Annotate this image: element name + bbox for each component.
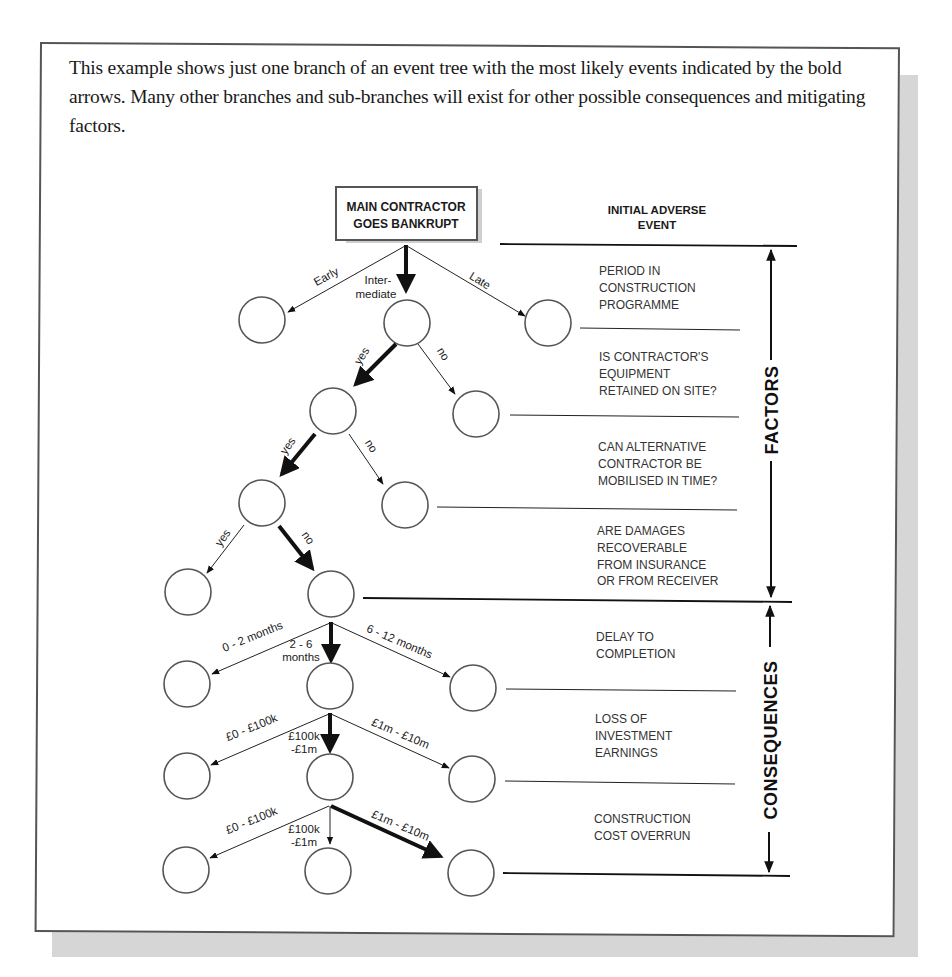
root-line-1: MAIN CONTRACTOR — [346, 200, 465, 214]
node-intermediate — [384, 300, 430, 346]
rule-cost — [503, 873, 790, 876]
rule-delay — [506, 689, 736, 691]
node-earn-low — [164, 753, 210, 799]
node-delay-short — [164, 661, 210, 707]
label-equip-yes: yes — [352, 345, 372, 367]
svg-text:COMPLETION: COMPLETION — [596, 647, 675, 661]
label-cost-mid-1: £100k — [288, 823, 320, 835]
label-delay-short: 0 - 2 months — [221, 619, 285, 654]
node-dmg-no — [308, 571, 354, 617]
svg-text:PERIOD IN: PERIOD IN — [599, 264, 660, 278]
side-label-alternative: CAN ALTERNATIVE CONTRACTOR BE MOBILISED … — [598, 440, 717, 488]
label-earn-mid-1: £100k — [288, 730, 320, 742]
svg-text:RECOVERABLE: RECOVERABLE — [597, 541, 687, 555]
svg-text:EQUIPMENT: EQUIPMENT — [599, 367, 671, 381]
node-early — [239, 297, 285, 343]
node-cost-low — [163, 847, 209, 893]
label-alt-yes: yes — [278, 435, 298, 457]
label-cost-mid-2: -£1m — [291, 836, 317, 848]
svg-text:RETAINED ON SITE?: RETAINED ON SITE? — [599, 384, 717, 398]
svg-text:IS CONTRACTOR'S: IS CONTRACTOR'S — [599, 350, 708, 364]
rule-damages — [363, 598, 792, 602]
svg-text:CAN ALTERNATIVE: CAN ALTERNATIVE — [598, 440, 706, 454]
svg-text:CONTRACTOR BE: CONTRACTOR BE — [598, 457, 702, 471]
side-label-cost: CONSTRUCTION COST OVERRUN — [594, 812, 691, 843]
node-dmg-yes — [165, 569, 211, 615]
svg-text:OR FROM RECEIVER: OR FROM RECEIVER — [597, 574, 719, 588]
node-cost-mid — [305, 848, 351, 894]
consequences-label: CONSEQUENCES — [761, 660, 781, 819]
node-equip-no — [453, 391, 499, 437]
svg-text:CONSTRUCTION: CONSTRUCTION — [599, 281, 696, 295]
label-late: Late — [467, 270, 492, 292]
side-label-initial: INITIAL ADVERSE EVENT — [608, 204, 707, 231]
svg-text:EARNINGS: EARNINGS — [595, 746, 658, 760]
svg-text:CONSTRUCTION: CONSTRUCTION — [594, 812, 691, 826]
rule-equipment — [510, 415, 739, 417]
svg-text:DELAY TO: DELAY TO — [596, 630, 654, 644]
svg-text:INITIAL ADVERSE: INITIAL ADVERSE — [608, 204, 707, 216]
node-delay-mid — [307, 663, 353, 709]
root-line-2: GOES BANKRUPT — [353, 217, 459, 231]
label-delay-long: 6 - 12 months — [365, 622, 435, 661]
node-alt-yes — [239, 480, 285, 526]
node-alt-no — [382, 482, 428, 528]
svg-text:EVENT: EVENT — [638, 219, 676, 231]
label-alt-no: no — [363, 437, 380, 454]
side-label-delay: DELAY TO COMPLETION — [596, 630, 675, 661]
svg-text:ARE DAMAGES: ARE DAMAGES — [597, 524, 685, 538]
label-intermediate-1: Inter- — [365, 274, 392, 286]
svg-text:COST OVERRUN: COST OVERRUN — [594, 829, 690, 843]
label-intermediate-2: mediate — [356, 288, 397, 300]
side-label-damages: ARE DAMAGES RECOVERABLE FROM INSURANCE O… — [597, 524, 719, 588]
label-delay-mid-2: months — [282, 651, 320, 663]
node-cost-high — [448, 850, 494, 896]
factors-label: FACTORS — [762, 365, 782, 454]
node-delay-long — [450, 665, 496, 711]
edge-late — [407, 246, 525, 316]
root-event-box: MAIN CONTRACTOR GOES BANKRUPT — [336, 187, 482, 243]
rule-earnings — [505, 781, 735, 784]
node-late — [525, 300, 571, 346]
rule-initial — [500, 244, 797, 246]
label-equip-no: no — [435, 345, 452, 362]
rule-alternative — [437, 507, 737, 510]
svg-text:FROM INSURANCE: FROM INSURANCE — [597, 558, 706, 572]
consequences-bracket: CONSEQUENCES — [761, 606, 781, 872]
node-earn-high — [449, 756, 495, 802]
svg-text:MOBILISED IN TIME?: MOBILISED IN TIME? — [598, 474, 717, 488]
node-equip-yes — [310, 388, 356, 434]
label-earn-mid-2: -£1m — [291, 743, 317, 755]
label-delay-mid-1: 2 - 6 — [289, 638, 312, 650]
side-label-equipment: IS CONTRACTOR'S EQUIPMENT RETAINED ON SI… — [599, 350, 717, 398]
svg-text:INVESTMENT: INVESTMENT — [595, 729, 673, 743]
label-earn-low: £0 - £100k — [224, 711, 279, 743]
side-label-earnings: LOSS OF INVESTMENT EARNINGS — [595, 712, 673, 760]
rule-period — [580, 328, 740, 330]
event-tree-diagram: MAIN CONTRACTOR GOES BANKRUPT Early Inte… — [0, 0, 952, 977]
factors-bracket: FACTORS — [762, 250, 782, 597]
node-earn-mid — [307, 754, 353, 800]
side-label-period: PERIOD IN CONSTRUCTION PROGRAMME — [599, 264, 696, 312]
label-dmg-yes: yes — [213, 527, 233, 549]
svg-text:LOSS OF: LOSS OF — [595, 712, 647, 726]
label-dmg-no: no — [300, 529, 317, 546]
svg-text:PROGRAMME: PROGRAMME — [599, 298, 679, 312]
